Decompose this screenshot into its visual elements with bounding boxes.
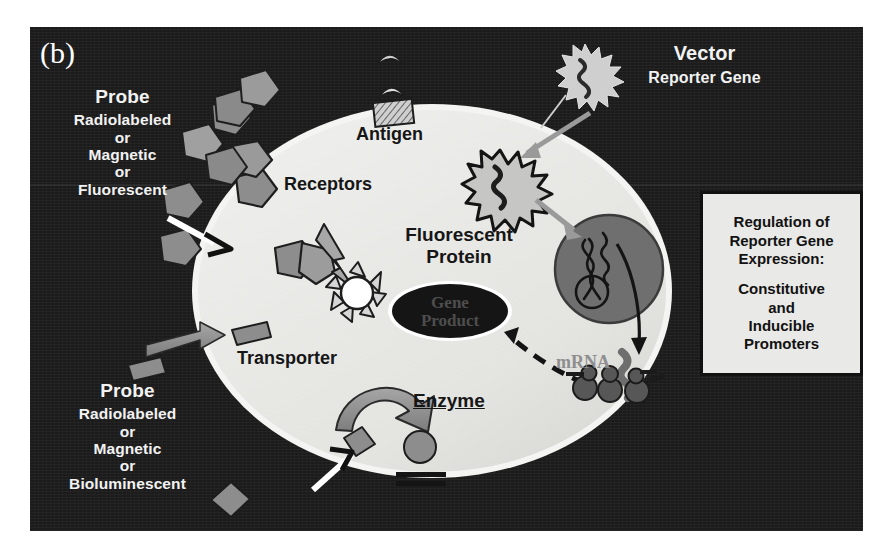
gene-product-label: Gene Product — [398, 294, 502, 330]
receptors-label: Receptors — [284, 174, 372, 195]
probe-bottom-line2: or — [40, 423, 215, 440]
info-box-title-line2: Reporter Gene — [729, 232, 833, 250]
antigen-label: Antigen — [356, 124, 423, 145]
info-box-title-line3: Expression: — [729, 250, 833, 268]
info-box-body-line1: Constitutive — [738, 280, 825, 298]
enzyme-label: Enzyme — [413, 390, 485, 412]
vector-header: Vector — [612, 42, 797, 64]
probe-bottom-line1: Radiolabeled — [40, 405, 215, 422]
vector-label: Vector Reporter Gene — [612, 42, 797, 87]
probe-top-line2: or — [40, 129, 205, 146]
fluorescent-protein-label: Fluorescent Protein — [384, 224, 534, 269]
probe-bottom-header: Probe — [40, 380, 215, 401]
probe-label-top: Probe Radiolabeled or Magnetic or Fluore… — [40, 86, 205, 198]
figure-canvas: (b) Probe Radiolabeled or Magnetic or Fl… — [0, 0, 895, 558]
gene-product-line2: Product — [398, 312, 502, 330]
probe-top-line3: Magnetic — [40, 146, 205, 163]
mrna-label: mRNA — [556, 352, 610, 373]
probe-bottom-line5: Bioluminescent — [40, 475, 215, 492]
probe-top-line1: Radiolabeled — [40, 111, 205, 128]
enzyme-baseline-bars — [396, 472, 446, 486]
panel-label: (b) — [40, 36, 75, 70]
fluorescent-protein-line2: Protein — [384, 246, 534, 268]
vector-subtitle: Reporter Gene — [612, 69, 797, 87]
probe-label-bottom: Probe Radiolabeled or Magnetic or Biolum… — [40, 380, 215, 492]
product-circle-icon — [404, 431, 436, 463]
vector-leader-line — [541, 95, 566, 128]
regulation-info-box: Regulation of Reporter Gene Expression: … — [700, 191, 863, 376]
info-box-body-line2: and — [738, 299, 825, 317]
probe-bottom-line4: or — [40, 457, 215, 474]
info-box-body-line3: Inducible — [738, 317, 825, 335]
antigen-icon — [373, 55, 414, 127]
info-box-body-line4: Promoters — [738, 335, 825, 353]
probe-top-line5: Fluorescent — [40, 181, 205, 198]
probe-bottom-line3: Magnetic — [40, 440, 215, 457]
probe-top-header: Probe — [40, 86, 205, 107]
gene-product-line1: Gene — [398, 294, 502, 312]
info-box-body: Constitutive and Inducible Promoters — [738, 280, 825, 353]
transporter-label: Transporter — [237, 348, 337, 369]
probe-top-line4: or — [40, 163, 205, 180]
info-box-title: Regulation of Reporter Gene Expression: — [729, 213, 833, 268]
info-box-title-line1: Regulation of — [729, 213, 833, 231]
fluorescent-protein-line1: Fluorescent — [384, 224, 534, 246]
